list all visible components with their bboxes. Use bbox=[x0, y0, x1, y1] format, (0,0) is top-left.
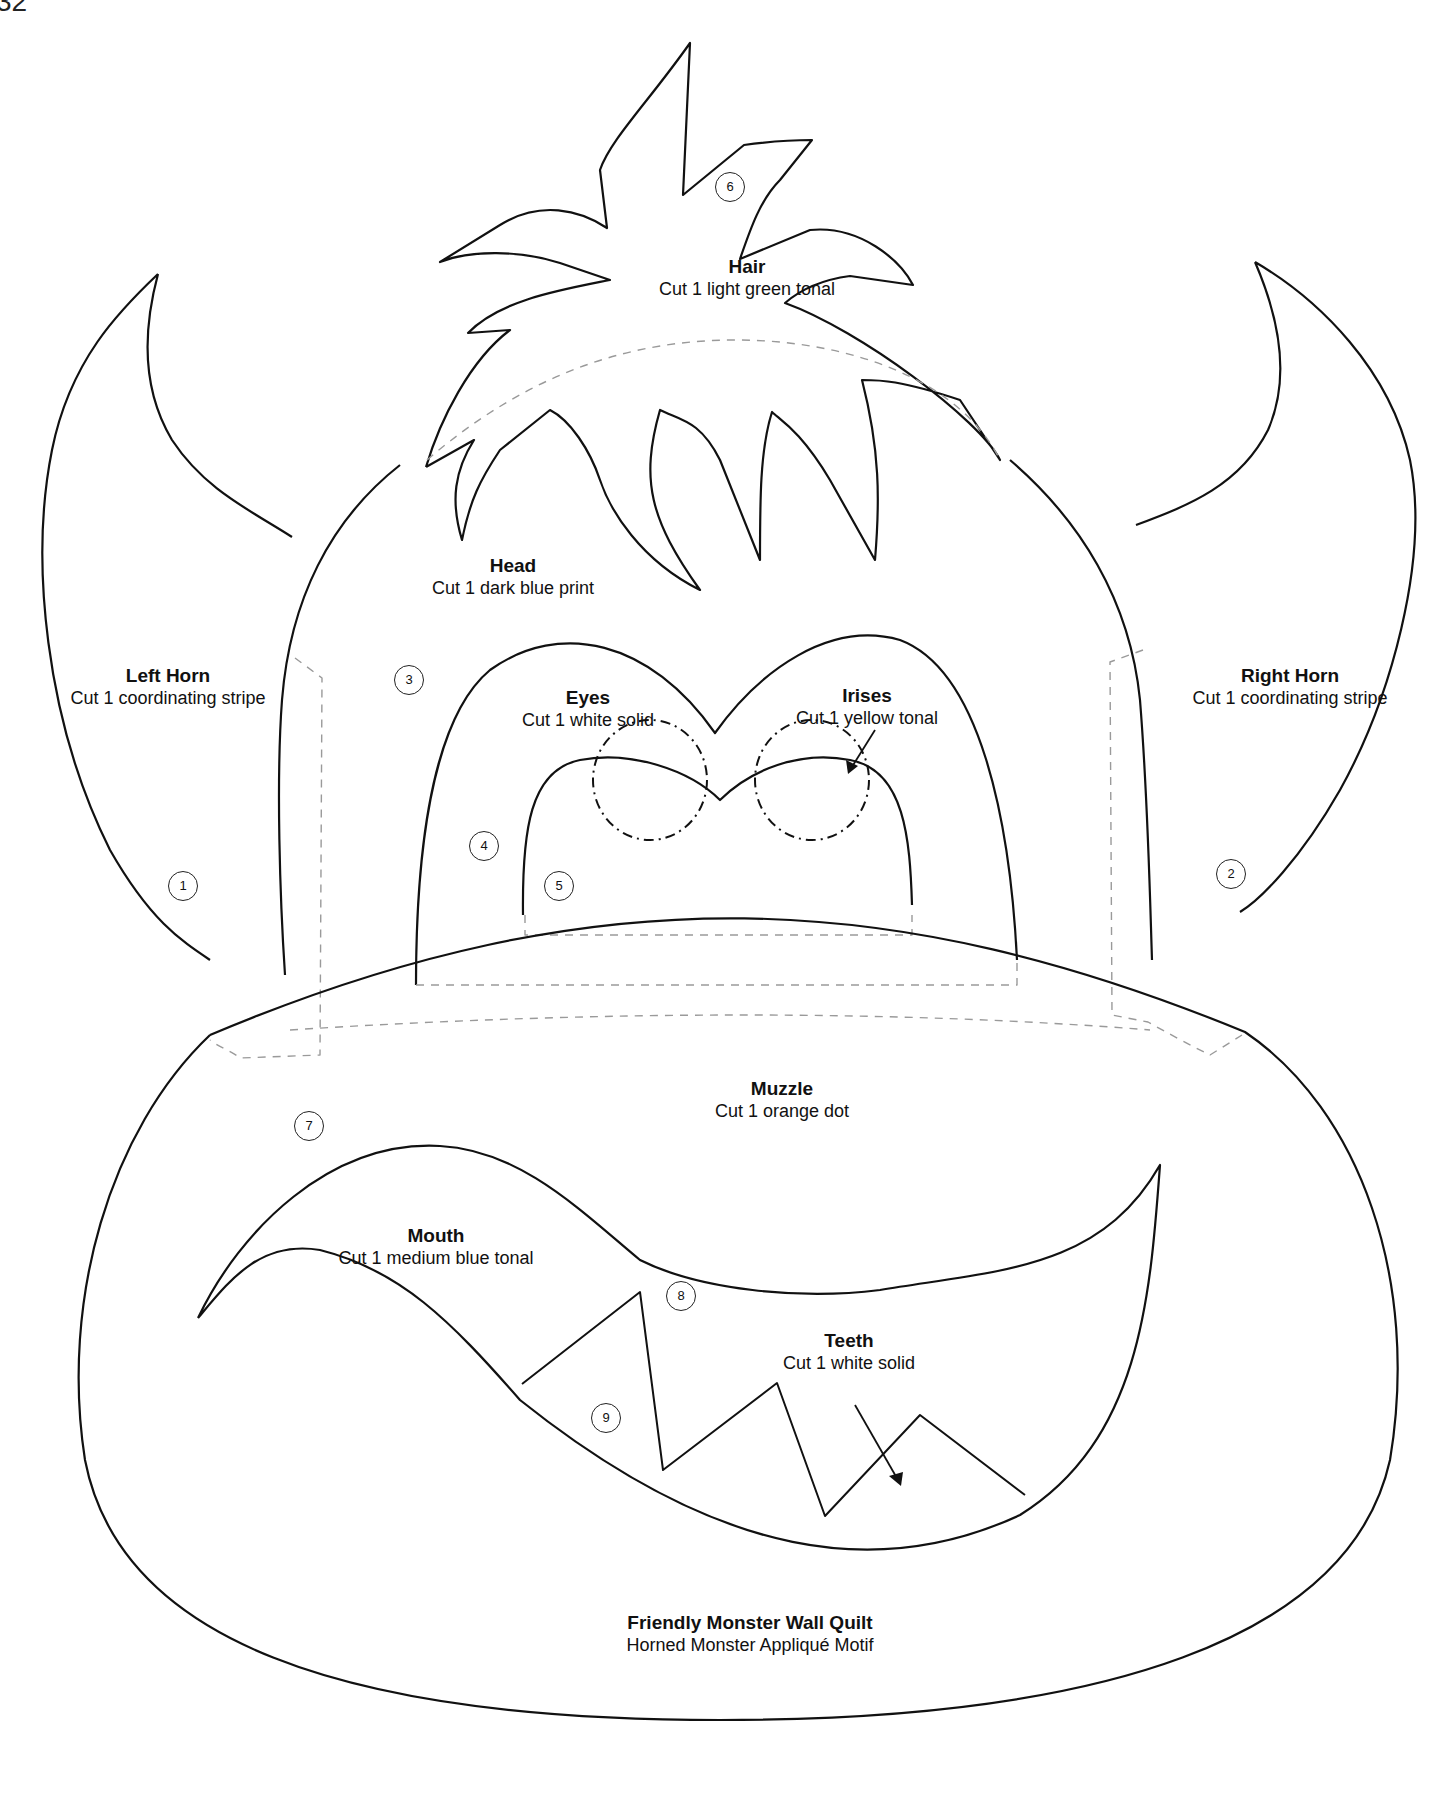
hair-label: Hair Cut 1 light green tonal bbox=[659, 256, 835, 300]
piece-instruction: Cut 1 white solid bbox=[783, 1353, 915, 1375]
right-horn-label: Right Horn Cut 1 coordinating stripe bbox=[1192, 665, 1387, 709]
hair-head-seam bbox=[427, 340, 1000, 460]
left-horn-label: Left Horn Cut 1 coordinating stripe bbox=[70, 665, 265, 709]
piece-number-badge: 8 bbox=[666, 1281, 696, 1311]
piece-number-badge: 2 bbox=[1216, 859, 1246, 889]
muzzle-label: Muzzle Cut 1 orange dot bbox=[715, 1078, 849, 1122]
left-horn-outline bbox=[43, 274, 292, 960]
horn-seams bbox=[210, 650, 1242, 1058]
piece-instruction: Cut 1 dark blue print bbox=[432, 578, 594, 600]
muzzle-outline bbox=[79, 918, 1398, 1720]
piece-title: Irises bbox=[796, 685, 938, 708]
piece-title: Mouth bbox=[338, 1225, 533, 1248]
teeth-label: Teeth Cut 1 white solid bbox=[783, 1330, 915, 1374]
head-label: Head Cut 1 dark blue print bbox=[432, 555, 594, 599]
eyes-label: Eyes Cut 1 white solid bbox=[522, 687, 654, 731]
mouth-label: Mouth Cut 1 medium blue tonal bbox=[338, 1225, 533, 1269]
piece-instruction: Cut 1 white solid bbox=[522, 710, 654, 732]
piece-instruction: Cut 1 orange dot bbox=[715, 1101, 849, 1123]
caption-subtitle: Horned Monster Appliqué Motif bbox=[626, 1635, 873, 1657]
right-iris-circle bbox=[755, 720, 869, 840]
piece-number-badge: 3 bbox=[394, 665, 424, 695]
piece-number-badge: 4 bbox=[469, 831, 499, 861]
piece-number-badge: 1 bbox=[168, 871, 198, 901]
piece-title: Head bbox=[432, 555, 594, 578]
piece-instruction: Cut 1 yellow tonal bbox=[796, 708, 938, 730]
piece-number-badge: 9 bbox=[591, 1403, 621, 1433]
hair-outline bbox=[426, 43, 1000, 590]
piece-title: Left Horn bbox=[70, 665, 265, 688]
piece-title: Right Horn bbox=[1192, 665, 1387, 688]
piece-number-badge: 7 bbox=[294, 1111, 324, 1141]
piece-number-badge: 5 bbox=[544, 871, 574, 901]
piece-instruction: Cut 1 light green tonal bbox=[659, 279, 835, 301]
head-outline bbox=[279, 460, 1152, 975]
caption-title: Friendly Monster Wall Quilt bbox=[626, 1612, 873, 1635]
eyes-head-seam bbox=[416, 960, 1017, 985]
teeth-outline bbox=[522, 1292, 1025, 1516]
piece-title: Eyes bbox=[522, 687, 654, 710]
teeth-arrow bbox=[855, 1405, 898, 1480]
right-horn-outline bbox=[1136, 262, 1415, 912]
irises-outline bbox=[523, 757, 912, 915]
piece-number-badge: 6 bbox=[715, 172, 745, 202]
piece-title: Muzzle bbox=[715, 1078, 849, 1101]
piece-instruction: Cut 1 coordinating stripe bbox=[1192, 688, 1387, 710]
irises-label: Irises Cut 1 yellow tonal bbox=[796, 685, 938, 729]
left-iris-circle bbox=[593, 720, 707, 840]
piece-title: Hair bbox=[659, 256, 835, 279]
piece-instruction: Cut 1 medium blue tonal bbox=[338, 1248, 533, 1270]
pattern-caption: Friendly Monster Wall Quilt Horned Monst… bbox=[626, 1612, 873, 1656]
muzzle-seam bbox=[290, 1015, 1150, 1030]
piece-instruction: Cut 1 coordinating stripe bbox=[70, 688, 265, 710]
piece-title: Teeth bbox=[783, 1330, 915, 1353]
